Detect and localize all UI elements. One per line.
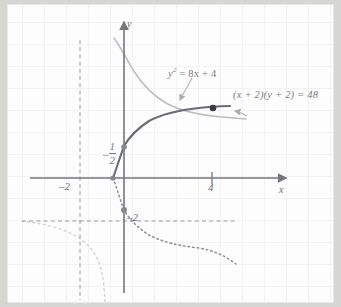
fraction-numerator: 1 (109, 141, 117, 152)
parabola-equation-label: y2 = 8x + 4 (168, 66, 216, 79)
x-tick-label-neg-two: –2 (59, 180, 70, 192)
parabola-x-intercept-label: –12 (103, 141, 116, 166)
x-axis-label: x (279, 184, 283, 195)
grid-pattern (8, 5, 333, 302)
figure-canvas: y2 = 8x + 4 (x + 2)(y + 2) = 48 –2 4 –2 … (0, 0, 341, 307)
graph-svg (0, 0, 341, 307)
one-half-fraction: 12 (109, 141, 117, 166)
y-axis-label: y (127, 18, 131, 29)
fraction-denominator: 2 (109, 155, 117, 166)
parabola-x-intercept-dot (110, 175, 115, 180)
hyperbola-equation-label: (x + 2)(y + 2) = 48 (233, 89, 318, 100)
intersection-point (210, 105, 217, 112)
x-tick-label-four: 4 (208, 181, 214, 193)
parabola-y-intercept-positive-dot (121, 144, 127, 150)
y-tick-label-neg-two: –2 (127, 211, 138, 223)
parabola-equation-rhs: = 8x + 4 (177, 68, 217, 79)
